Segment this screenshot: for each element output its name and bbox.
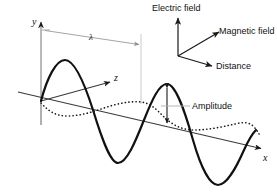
- wavelength-label: λ: [89, 32, 93, 42]
- field-triad: [178, 18, 219, 66]
- magnetic-field-label: Magnetic field: [219, 26, 275, 36]
- z-axis-label: z: [114, 73, 118, 83]
- y-axis-label: y: [32, 17, 36, 27]
- z-axis: [41, 82, 110, 101]
- figure-canvas: Electric field Magnetic field Distance A…: [0, 0, 277, 196]
- distance-label: Distance: [216, 61, 251, 71]
- amplitude-label: Amplitude: [192, 101, 232, 111]
- electric-field-label: Electric field: [152, 3, 201, 13]
- x-axis-label: x: [263, 153, 267, 163]
